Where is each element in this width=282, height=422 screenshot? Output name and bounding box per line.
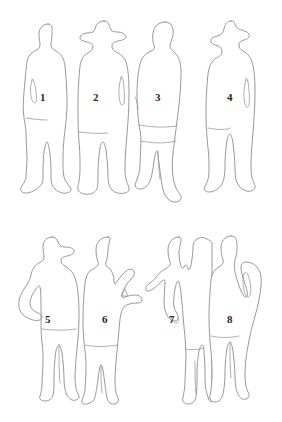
figure-5-outline xyxy=(18,233,84,403)
figure-7-outline xyxy=(145,233,213,405)
figure-6-label: 6 xyxy=(102,314,108,325)
figure-2-body xyxy=(78,21,129,194)
figure-4-label: 4 xyxy=(227,92,233,103)
figure-1-outline xyxy=(18,20,80,200)
figure-8-body xyxy=(209,236,261,402)
figure-2-label: 2 xyxy=(93,92,99,103)
figure-7-body xyxy=(146,237,212,404)
figure-1-body xyxy=(21,24,71,193)
figure-8-outline xyxy=(205,232,267,407)
figure-6-leg-split xyxy=(101,365,102,393)
figure-4-body xyxy=(204,21,255,192)
figure-3-body xyxy=(135,22,181,202)
figure-8-leg-split xyxy=(230,342,231,378)
figure-6-outline xyxy=(80,233,148,405)
figure-sheet: 1 2 3 4 5 xyxy=(0,0,282,422)
figure-2-outline xyxy=(72,18,136,202)
figure-3-label: 3 xyxy=(155,92,161,103)
figure-grid: 1 2 3 4 5 xyxy=(0,0,282,422)
figure-5-label: 5 xyxy=(45,314,51,325)
figure-1-label: 1 xyxy=(40,92,46,103)
figure-4-outline xyxy=(200,18,262,200)
figure-8-label: 8 xyxy=(227,314,233,325)
figure-7-label: 7 xyxy=(169,314,175,325)
figure-3-outline xyxy=(133,19,197,209)
figure-6-body xyxy=(82,237,142,404)
figure-5-leg-split xyxy=(59,345,60,383)
